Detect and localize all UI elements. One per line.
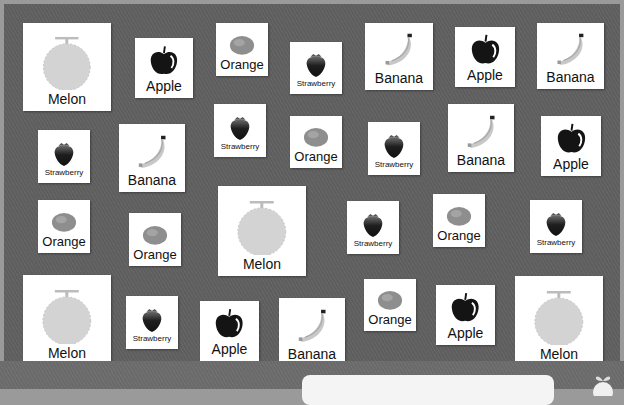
card-orange[interactable]: Orange (364, 279, 416, 331)
card-orange[interactable]: Orange (38, 200, 90, 253)
card-banana[interactable]: Banana (365, 23, 433, 90)
card-banana[interactable]: Banana (537, 23, 604, 89)
melon-icon (231, 199, 293, 255)
card-label: Orange (133, 248, 176, 261)
strawberry-icon (53, 141, 75, 167)
card-apple[interactable]: Apple (455, 27, 515, 87)
card-strawberry[interactable]: Strawberry (126, 296, 178, 349)
strawberry-icon (545, 211, 567, 237)
card-label: Strawberry (297, 80, 336, 88)
card-strawberry[interactable]: Strawberry (347, 201, 399, 254)
card-apple[interactable]: Apple (436, 285, 495, 345)
card-label: Strawberry (537, 239, 576, 247)
orange-icon (377, 290, 403, 311)
card-melon[interactable]: Melon (218, 186, 306, 276)
banana-icon (552, 32, 589, 68)
card-orange[interactable]: Orange (216, 23, 268, 76)
orange-icon (51, 212, 77, 233)
card-label: Orange (368, 313, 411, 326)
orange-icon (229, 35, 255, 56)
card-orange[interactable]: Orange (433, 194, 485, 247)
strawberry-icon (305, 52, 327, 78)
card-label: Strawberry (375, 161, 414, 169)
card-orange[interactable]: Orange (290, 116, 342, 168)
card-strawberry[interactable]: Strawberry (214, 104, 266, 157)
card-label: Melon (540, 347, 578, 361)
card-banana[interactable]: Banana (119, 124, 185, 192)
card-strawberry[interactable]: Strawberry (38, 130, 90, 183)
card-label: Banana (128, 173, 176, 187)
card-label: Apple (467, 68, 503, 82)
melon-icon (36, 35, 98, 90)
orange-icon (446, 206, 472, 227)
card-label: Banana (546, 70, 594, 84)
apple-icon (213, 307, 245, 340)
card-melon[interactable]: Melon (515, 276, 603, 366)
card-label: Orange (220, 58, 263, 71)
card-label: Banana (375, 71, 423, 85)
apple-icon (148, 44, 180, 77)
card-melon[interactable]: Melon (23, 23, 111, 111)
card-label: Orange (437, 229, 480, 242)
card-label: Apple (448, 326, 484, 340)
card-label: Strawberry (45, 169, 84, 177)
card-apple[interactable]: Apple (541, 116, 601, 176)
card-label: Melon (243, 257, 281, 271)
card-label: Melon (48, 346, 86, 360)
card-label: Orange (42, 235, 85, 248)
card-label: Apple (212, 342, 248, 356)
speech-bubble (302, 375, 554, 405)
melon-icon (528, 289, 590, 345)
card-banana[interactable]: Banana (279, 298, 345, 366)
card-strawberry[interactable]: Strawberry (290, 42, 342, 94)
card-apple[interactable]: Apple (135, 38, 193, 98)
card-label: Strawberry (133, 335, 172, 343)
banana-icon (463, 114, 499, 151)
banana-icon (380, 32, 417, 69)
strawberry-icon (141, 307, 163, 333)
apple-icon (555, 122, 588, 155)
card-label: Banana (288, 347, 336, 361)
card-orange[interactable]: Orange (129, 213, 181, 266)
strawberry-icon (383, 133, 405, 159)
card-label: Strawberry (354, 240, 393, 248)
banana-icon (134, 134, 170, 171)
orange-icon (303, 127, 329, 148)
card-label: Banana (457, 153, 505, 167)
card-melon[interactable]: Melon (23, 275, 111, 365)
card-label: Melon (48, 92, 86, 106)
card-label: Strawberry (221, 143, 260, 151)
mascot-icon (588, 372, 618, 396)
strawberry-icon (229, 115, 251, 141)
card-strawberry[interactable]: Strawberry (530, 200, 582, 253)
apple-icon (469, 33, 502, 66)
apple-icon (449, 291, 481, 324)
card-label: Apple (146, 79, 182, 93)
card-strawberry[interactable]: Strawberry (368, 122, 420, 175)
card-label: Orange (294, 150, 337, 163)
card-apple[interactable]: Apple (200, 301, 259, 361)
strawberry-icon (362, 212, 384, 238)
melon-icon (36, 288, 98, 344)
orange-icon (142, 225, 168, 246)
card-banana[interactable]: Banana (448, 104, 514, 172)
card-label: Apple (553, 157, 589, 171)
banana-icon (294, 308, 330, 345)
